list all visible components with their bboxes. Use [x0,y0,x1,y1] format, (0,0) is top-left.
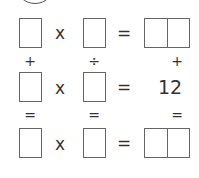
r1-result-box[interactable] [144,18,190,48]
r2-equals: = [114,79,134,96]
r2-multiply: x [50,80,70,97]
r3-result-box[interactable] [144,128,190,158]
col1-equals: = [20,108,40,122]
r1-box-2[interactable] [83,18,106,48]
r3-box-1[interactable] [19,128,42,158]
r1-box-1[interactable] [19,18,42,48]
r3-multiply: x [50,136,70,153]
r2-box-1[interactable] [19,72,42,102]
r3-box-2[interactable] [83,128,106,158]
number-circle [15,0,55,4]
r2-box-2[interactable] [83,72,106,102]
col1-plus: + [20,54,40,68]
col3-plus: + [167,54,187,68]
r3-equals: = [114,135,134,152]
r2-result: 12 [158,77,182,97]
r1-multiply: x [50,25,70,42]
col2-divide: ÷ [84,54,104,68]
col2-equals: = [84,108,104,122]
col3-equals: = [167,108,187,122]
r1-equals: = [114,25,134,42]
